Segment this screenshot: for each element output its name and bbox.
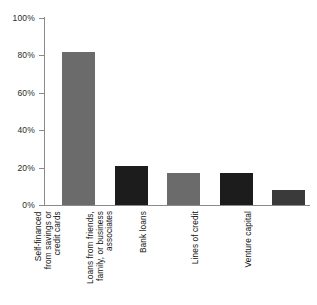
y-axis-tick-label: 0% [22,201,35,210]
y-axis-tick-label: 80% [17,51,35,60]
y-axis-tick [39,205,45,206]
y-axis-tick-label: 60% [17,89,35,98]
x-axis-category-label: Venture capital [244,211,317,267]
bar [220,173,253,205]
bar [272,190,305,205]
x-axis-line [44,205,310,206]
y-axis-tick-label: 100% [12,14,35,23]
bar [115,166,148,205]
y-axis-tick-label: 20% [17,164,35,173]
plot-area [45,18,310,205]
y-axis-tick-label: 40% [17,126,35,135]
bar-chart: 0%20%40%60%80%100% Self-financed from sa… [0,0,316,305]
bar [62,52,95,205]
bar [167,173,200,205]
